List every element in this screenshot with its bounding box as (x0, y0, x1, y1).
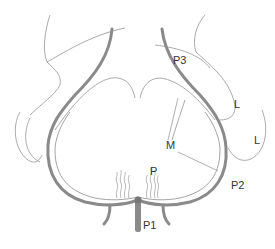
anatomical-diagram: P3 L L M P P2 P1 (0, 0, 275, 249)
label-p1: P1 (143, 219, 156, 231)
membrane-inner-lining (55, 112, 220, 200)
label-p2: P2 (231, 179, 244, 191)
label-m: M (166, 139, 175, 151)
left-outer-lobes (15, 15, 125, 162)
label-l-right: L (254, 134, 260, 146)
label-l-upper: L (234, 98, 240, 110)
label-p: P (150, 165, 157, 177)
vessel-junction (135, 197, 142, 204)
label-p3: P3 (173, 54, 186, 66)
